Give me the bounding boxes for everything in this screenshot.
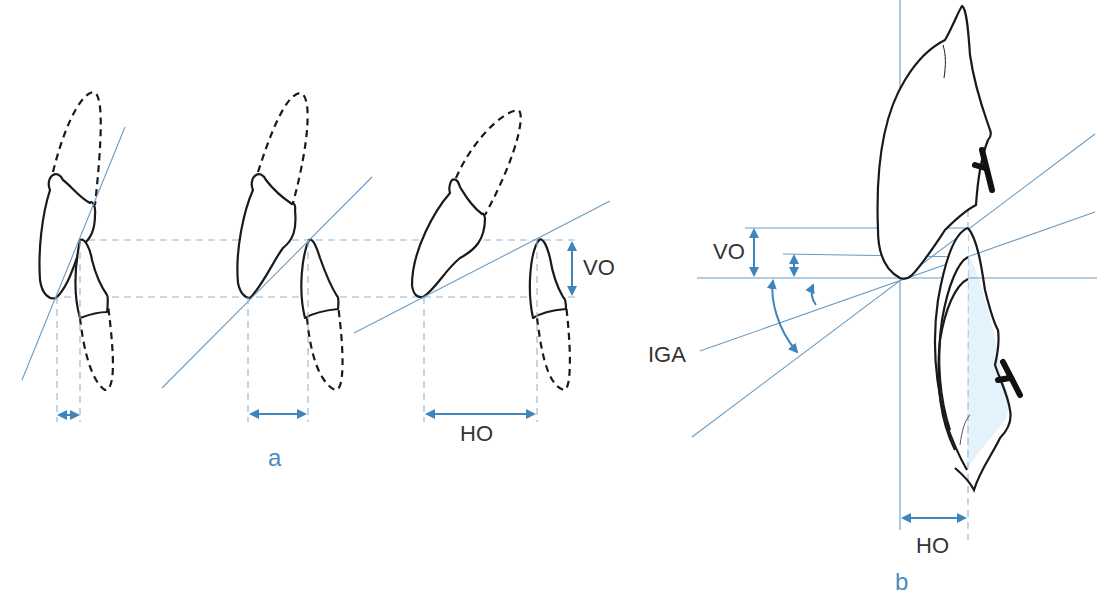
occlusion-diagram: VO HO a VO IGA HO (0, 0, 1113, 601)
lower-incisor-crown (530, 239, 566, 318)
iga-label: IGA (648, 342, 686, 367)
vo-label: VO (713, 239, 745, 264)
panel-b-label: b (895, 568, 908, 595)
upper-incisor-crown (237, 174, 295, 298)
ho-label: HO (916, 533, 949, 558)
mid-incisal-edge-line (783, 254, 968, 257)
vo-label: VO (583, 255, 615, 280)
case-1-small-overlap (22, 92, 125, 422)
panel-a: VO HO a (22, 92, 615, 471)
panel-a-label: a (268, 444, 282, 471)
small-angle-arc (812, 285, 816, 305)
panel-b: VO IGA HO b (648, 0, 1097, 595)
lower-root-outline (307, 305, 343, 390)
lower-incisor-crown (301, 240, 338, 318)
lower-root-outline (537, 305, 570, 390)
ho-label: HO (460, 421, 493, 446)
incisal-guidance-angle-arc (772, 281, 797, 352)
case-3-large-overlap (354, 110, 610, 422)
guidance-line (22, 127, 125, 380)
case-2-medium-overlap (162, 93, 372, 422)
lower-root-outline (80, 305, 113, 390)
upper-incisor-crown (412, 179, 485, 297)
